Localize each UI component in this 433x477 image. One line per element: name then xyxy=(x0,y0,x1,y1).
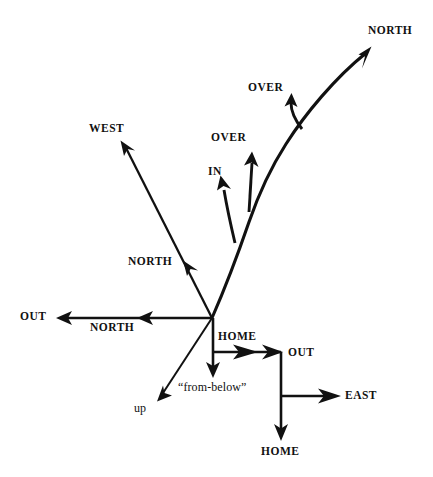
arrow-over-upper xyxy=(285,93,303,129)
label-over-upper: OVER xyxy=(248,82,283,94)
label-east: EAST xyxy=(345,390,377,402)
label-out-right: OUT xyxy=(288,347,314,359)
diagram-canvas: NORTH OVER WEST OVER IN NORTH OUT NORTH … xyxy=(0,0,433,477)
label-north-mid-left: NORTH xyxy=(128,256,172,268)
arrow-west xyxy=(121,141,213,319)
diagram-vector-layer xyxy=(0,0,433,477)
label-home-upper: HOME xyxy=(218,331,256,343)
arrowhead-in xyxy=(217,176,231,191)
arrow-in xyxy=(217,176,235,244)
label-up: up xyxy=(134,402,146,414)
label-over-lower: OVER xyxy=(211,132,246,144)
label-north-top: NORTH xyxy=(368,25,412,37)
arrow-from-below xyxy=(206,318,220,378)
label-out-left: OUT xyxy=(20,311,46,323)
label-in: IN xyxy=(208,166,222,178)
arrow-home-upper xyxy=(213,345,283,360)
arrow-east xyxy=(281,389,341,404)
arrowhead-up xyxy=(157,386,172,402)
label-west: WEST xyxy=(89,123,124,135)
label-north-left: NORTH xyxy=(90,322,134,334)
label-from-below: “from-below” xyxy=(178,381,247,393)
arrow-north-top xyxy=(212,47,372,319)
label-home-bottom: HOME xyxy=(261,446,299,458)
